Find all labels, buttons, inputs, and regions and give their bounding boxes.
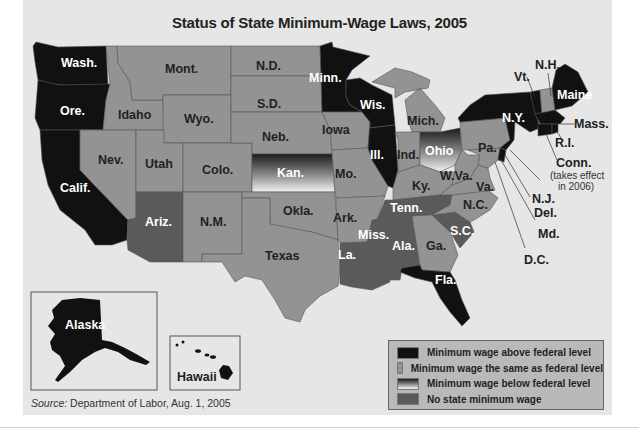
label-fla: Fla. [435, 273, 457, 287]
label-nd: N.D. [256, 59, 281, 73]
label-alaska: Alaska [65, 318, 106, 332]
label-ny: N.Y. [502, 111, 525, 125]
legend-item-above: Minimum wage above federal level [397, 345, 603, 361]
label-ill: Ill. [370, 148, 384, 162]
label-wyo: Wyo. [184, 112, 214, 126]
label-pa: Pa. [478, 141, 497, 155]
source-note: Source: Department of Labor, Aug. 1, 200… [31, 397, 231, 409]
label-mass: Mass. [574, 117, 609, 131]
label-ri: R.I. [555, 136, 574, 150]
label-neb: Neb. [262, 130, 289, 144]
label-minn: Minn. [309, 71, 342, 85]
conn-note-line2: in 2006) [558, 181, 594, 192]
conn-note-line1: (takes effect [550, 170, 605, 181]
label-conn: Conn. [556, 156, 591, 170]
state-ri[interactable] [552, 124, 558, 134]
source-label: Source: [31, 397, 67, 409]
label-ore: Ore. [60, 104, 85, 118]
legend: Minimum wage above federal level Minimum… [388, 340, 604, 410]
label-ind: Ind. [397, 148, 419, 162]
legend-item-same: Minimum wage the same as federal level [397, 361, 603, 377]
label-nev: Nev. [98, 153, 123, 167]
label-wash: Wash. [61, 56, 97, 70]
label-idaho: Idaho [118, 108, 152, 122]
swatch-below [397, 378, 419, 390]
legend-label: Minimum wage above federal level [427, 347, 591, 358]
label-calif: Calif. [60, 181, 91, 195]
label-ariz: Ariz. [145, 215, 172, 229]
label-texas: Texas [265, 249, 300, 263]
label-okla: Okla. [283, 204, 314, 218]
label-vt: Vt. [514, 70, 530, 84]
label-wva: W.Va. [440, 169, 473, 183]
swatch-none [397, 393, 419, 405]
label-dc: D.C. [524, 253, 549, 267]
swatch-same [397, 362, 403, 374]
legend-label: Minimum wage the same as federal level [411, 363, 603, 374]
label-hawaii: Hawaii [177, 370, 217, 384]
legend-label: No state minimum wage [427, 394, 541, 405]
label-la: La. [338, 248, 356, 262]
legend-item-below: Minimum wage below federal level [397, 376, 603, 392]
label-mich: Mich. [407, 114, 439, 128]
label-tenn: Tenn. [390, 201, 422, 215]
swatch-above [397, 347, 419, 359]
label-nm: N.M. [200, 215, 226, 229]
label-miss: Miss. [358, 228, 389, 242]
label-ohio: Ohio [425, 144, 454, 158]
label-nj: N.J. [532, 192, 555, 206]
state-conn[interactable] [538, 124, 552, 136]
source-text: Department of Labor, Aug. 1, 2005 [70, 397, 231, 409]
hawaii-inset: Hawaii [170, 336, 240, 390]
legend-label: Minimum wage below federal level [427, 378, 590, 389]
label-ala: Ala. [392, 239, 415, 253]
label-sd: S.D. [257, 97, 281, 111]
label-maine: Maine [557, 88, 592, 102]
label-iowa: Iowa [322, 123, 351, 137]
label-del: Del. [534, 206, 557, 220]
legend-item-none: No state minimum wage [397, 392, 603, 408]
alaska-inset: Alaska [31, 292, 157, 390]
label-kan: Kan. [277, 166, 304, 180]
label-utah: Utah [145, 157, 173, 171]
label-mo: Mo. [335, 167, 357, 181]
label-nc: N.C. [463, 198, 488, 212]
label-ga: Ga. [426, 239, 446, 253]
label-colo: Colo. [202, 163, 233, 177]
label-wis: Wis. [360, 98, 386, 112]
label-md: Md. [538, 227, 560, 241]
label-mont: Mont. [165, 62, 198, 76]
label-nh: N.H. [535, 58, 560, 72]
label-sc: S.C. [450, 224, 474, 238]
label-ky: Ky. [412, 179, 431, 193]
label-ark: Ark. [333, 211, 357, 225]
label-va: Va. [476, 180, 494, 194]
